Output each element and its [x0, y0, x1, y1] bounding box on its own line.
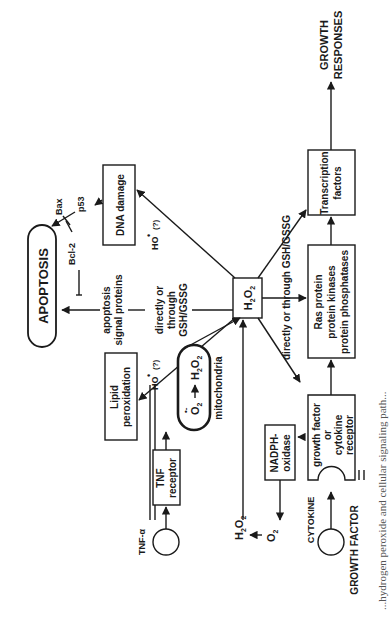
transcription-factors-node: Transcription factors: [308, 82, 355, 215]
svg-text:receptor: receptor: [344, 415, 355, 455]
nadph-oxidase-node: NADPH- oxidase: [265, 425, 305, 520]
svg-text:•-: •-: [181, 407, 190, 413]
apoptosis-signal-proteins: apoptosis signal proteins: [62, 274, 145, 346]
svg-text:apoptosis: apoptosis: [101, 286, 112, 334]
svg-text:factors: factors: [332, 166, 343, 200]
svg-text:TNF-α: TNF-α: [137, 529, 147, 555]
svg-text:TNF: TNF: [155, 468, 166, 487]
tnf-alpha-ligand: TNF-α: [137, 507, 179, 555]
apoptosis-node: APOPTOSIS: [28, 225, 56, 347]
svg-text:CYTOKINE: CYTOKINE: [306, 497, 316, 543]
svg-text:Ras protein: Ras protein: [313, 274, 324, 329]
svg-text:growth factor: growth factor: [311, 403, 322, 467]
svg-text:GSH/GSSG: GSH/GSSG: [178, 283, 189, 337]
svg-text:(?): (?): [151, 219, 160, 230]
svg-text:mitochondria: mitochondria: [213, 356, 224, 420]
svg-text:Transcription: Transcription: [319, 151, 330, 214]
svg-text:GROWTH: GROWTH: [318, 20, 330, 70]
bcl2-label: Bcl-2: [67, 243, 77, 265]
svg-text:DNA damage: DNA damage: [115, 174, 126, 236]
svg-text:protein kinases: protein kinases: [326, 265, 337, 339]
bax-label: Bax: [54, 198, 64, 215]
growth-factor-receptor-node: growth factor or cytokine receptor: [308, 360, 355, 480]
svg-text:oxidase: oxidase: [281, 434, 292, 472]
svg-text:•: •: [144, 374, 154, 377]
svg-text:directly or: directly or: [154, 286, 165, 334]
lipid-peroxidation-node: Lipid peroxidation: [105, 353, 137, 440]
svg-text:or: or: [322, 430, 333, 440]
svg-text:RESPONSES: RESPONSES: [332, 11, 344, 79]
svg-text:(?): (?): [151, 359, 160, 370]
svg-text:receptor: receptor: [167, 458, 178, 498]
apoptosis-label: APOPTOSIS: [36, 248, 51, 324]
redox-signaling-diagram: APOPTOSIS Bax Bcl-2 p53 apoptosis signal…: [0, 0, 389, 630]
growth-responses-label: GROWTH RESPONSES: [318, 11, 344, 79]
ras-protein-node: Ras protein protein kinases protein phos…: [308, 217, 355, 358]
h2o2-extracellular: H2O2: [233, 516, 247, 540]
svg-text:through: through: [166, 291, 177, 329]
svg-text:peroxidation: peroxidation: [121, 367, 132, 427]
svg-text:NADPH-: NADPH-: [269, 434, 280, 473]
tnf-receptor-node: TNF receptor: [153, 432, 180, 505]
figure-caption-fragment: ...hydrogen peroxide and cellular signal…: [376, 391, 388, 610]
h2o2-center-node: H2O2: [233, 278, 262, 318]
p53-label: p53: [76, 196, 86, 212]
svg-text:GROWTH FACTOR: GROWTH FACTOR: [349, 505, 360, 595]
svg-text:protein phosphatases: protein phosphatases: [339, 250, 350, 354]
gsh-gssg-label-lower: directly or through GSH/GSSG: [258, 210, 306, 382]
svg-text:cytokine: cytokine: [333, 414, 344, 455]
dna-damage-node: DNA damage: [103, 165, 135, 245]
cytokine-ligand: CYTOKINE GROWTH FACTOR: [306, 492, 360, 595]
svg-text:•: •: [144, 234, 154, 237]
superoxide-extracellular: O2: [265, 529, 279, 542]
ho-radical-dna: HO: [150, 237, 160, 251]
svg-text:signal proteins: signal proteins: [113, 274, 124, 346]
svg-text:Lipid: Lipid: [109, 385, 120, 409]
apoptosis-regulators: Bax Bcl-2 p53: [52, 196, 102, 295]
